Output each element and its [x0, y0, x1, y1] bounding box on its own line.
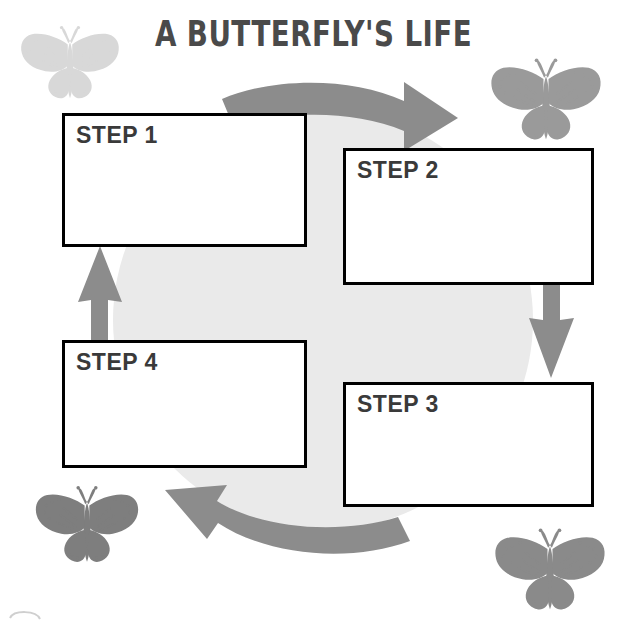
- step-box-3[interactable]: STEP 3: [343, 382, 594, 507]
- monarch-butterfly-icon: [28, 482, 146, 570]
- monarch-butterfly-icon: [483, 54, 609, 148]
- step-label-2: STEP 2: [357, 157, 439, 184]
- corner-mark: [8, 598, 42, 620]
- arrow-step4-to-step1-icon: [78, 246, 122, 340]
- step-box-2[interactable]: STEP 2: [343, 148, 594, 285]
- step-box-1[interactable]: STEP 1: [62, 113, 307, 247]
- monarch-butterfly-icon: [14, 22, 126, 106]
- arrow-step2-to-step3-icon: [529, 285, 574, 378]
- worksheet-page: A BUTTERFLY'S LIFE STEP 1 STEP 2 STEP 3 …: [0, 0, 627, 620]
- monarch-butterfly-icon: [487, 524, 613, 618]
- step-label-1: STEP 1: [76, 122, 158, 149]
- step-label-3: STEP 3: [357, 391, 439, 418]
- step-label-4: STEP 4: [76, 349, 158, 376]
- step-box-4[interactable]: STEP 4: [62, 340, 307, 468]
